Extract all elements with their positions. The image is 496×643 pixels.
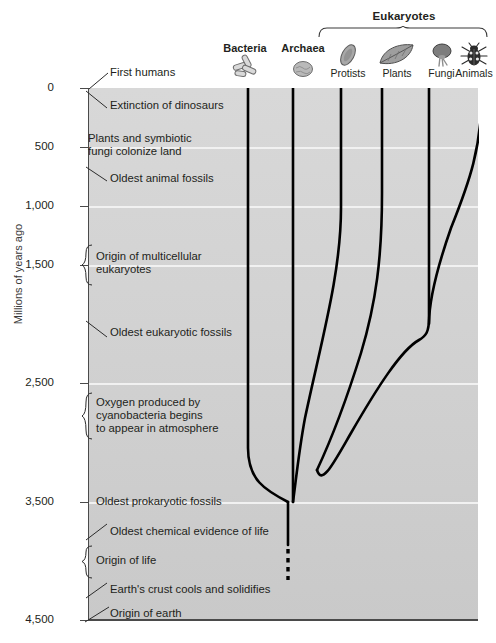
tick-mark-3500	[80, 502, 88, 503]
tick-mark-500	[80, 147, 88, 148]
leader-oldest-animal-fossils	[83, 166, 109, 186]
taxon-protists: Protists	[322, 42, 374, 80]
leader-earths-crust-cools	[83, 580, 109, 602]
eukaryotes-group-label: Eukaryotes	[320, 10, 488, 22]
brace-oxygen-cyanobacteria	[81, 392, 95, 440]
animal-beetle-icon	[452, 42, 496, 68]
tick-mark-1000	[80, 206, 88, 207]
brace-origin-of-life	[81, 545, 95, 579]
plant-leaf-icon	[372, 42, 422, 68]
protist-amoeba-icon	[322, 42, 374, 68]
leader-origin-of-earth	[83, 605, 111, 625]
event-oldest-chemical-evidence: Oldest chemical evidence of life	[110, 525, 269, 538]
y-axis-title: Millions of years ago	[12, 184, 24, 364]
event-oxygen-cyanobacteria: Oxygen produced by cyanobacteria begins …	[96, 396, 218, 436]
tick-label-4500: 4,500	[0, 613, 54, 625]
leader-oldest-chemical-evidence	[83, 522, 109, 544]
tick-label-1500: 1,500	[0, 258, 54, 270]
leader-oldest-eukaryotic-fossils	[83, 320, 109, 342]
taxon-plants: Plants	[372, 42, 422, 80]
taxon-label-plants: Plants	[372, 68, 422, 80]
event-earths-crust-cools: Earth's crust cools and solidifies	[110, 583, 270, 596]
phylogenetic-tree	[89, 88, 479, 620]
event-plants-colonize-land: Plants and symbiotic fungi colonize land	[88, 132, 192, 158]
tick-label-3500: 3,500	[0, 495, 54, 507]
branch-plants	[317, 88, 382, 470]
tick-label-1000: 1,000	[0, 199, 54, 211]
event-oldest-eukaryotic-fossils: Oldest eukaryotic fossils	[110, 326, 232, 339]
event-origin-of-earth: Origin of earth	[110, 607, 182, 620]
figure-root: Eukaryotes Bacteria Archaea	[0, 0, 496, 643]
taxon-label-animals: Animals	[452, 68, 496, 80]
event-oldest-prokaryotic-fossils: Oldest prokaryotic fossils	[96, 495, 222, 508]
taxon-animals: Animals	[452, 42, 496, 80]
plot-area	[88, 88, 478, 620]
tick-label-500: 500	[0, 140, 54, 152]
branch-animals	[429, 88, 479, 324]
taxon-label-bacteria: Bacteria	[214, 42, 276, 54]
tick-label-0: 0	[0, 81, 54, 93]
event-origin-of-life: Origin of life	[96, 554, 156, 567]
branch-bacteria	[248, 88, 288, 502]
leader-first-humans	[83, 72, 109, 92]
tick-mark-2500	[80, 383, 88, 384]
taxon-label-protists: Protists	[322, 68, 374, 80]
leader-extinction-dinosaurs	[83, 90, 109, 112]
event-origin-multicellular-eukaryotes: Origin of multicellular eukaryotes	[96, 250, 201, 276]
event-oldest-animal-fossils: Oldest animal fossils	[110, 172, 214, 185]
taxon-bacteria: Bacteria	[214, 42, 276, 80]
eukaryotes-bracket	[318, 26, 488, 38]
event-first-humans: First humans	[110, 66, 175, 79]
brace-origin-multicellular-eukaryotes	[81, 244, 95, 286]
tick-label-2500: 2,500	[0, 376, 54, 388]
bacteria-rods-icon	[214, 54, 276, 80]
branch-protists	[293, 88, 341, 502]
event-extinction-dinosaurs: Extinction of dinosaurs	[110, 99, 224, 112]
